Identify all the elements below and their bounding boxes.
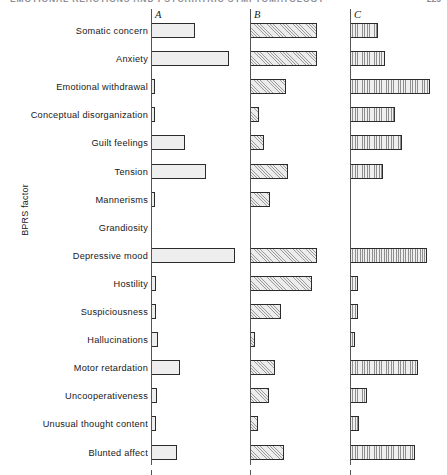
bar-c	[350, 51, 385, 66]
chart-row: Hallucinations	[0, 328, 447, 356]
chart-row: Blunted affect	[0, 441, 447, 469]
bar-a	[151, 51, 229, 66]
bar-b	[250, 79, 286, 94]
category-label: Blunted affect	[88, 448, 148, 458]
chart-row: Somatic concern	[0, 19, 447, 47]
bar-c	[350, 360, 418, 375]
panel-b-baseline-axis	[250, 9, 251, 465]
bar-a	[151, 135, 185, 150]
bar-c	[350, 79, 430, 94]
category-label: Anxiety	[116, 54, 148, 64]
chart-row: Anxiety	[0, 47, 447, 75]
bar-b	[250, 304, 281, 319]
category-label: Motor retardation	[74, 363, 148, 373]
bar-a	[151, 164, 206, 179]
chart-row: Hostility	[0, 272, 447, 300]
axis-tick-c	[350, 470, 351, 475]
chart-row: Depressive mood	[0, 244, 447, 272]
chart-row: Conceptual disorganization	[0, 103, 447, 131]
category-label: Uncooperativeness	[65, 391, 148, 401]
chart-row: Tension	[0, 160, 447, 188]
category-label: Emotional withdrawal	[56, 82, 148, 92]
category-label: Suspiciousness	[81, 307, 148, 317]
category-label: Mannerisms	[95, 195, 148, 205]
bar-b	[250, 51, 317, 66]
bar-c	[350, 248, 427, 263]
chart-row: Guilt feelings	[0, 131, 447, 159]
bar-c	[350, 304, 358, 319]
bar-b	[250, 416, 258, 431]
category-label: Somatic concern	[76, 26, 148, 36]
bar-a	[151, 248, 235, 263]
bar-c	[350, 416, 359, 431]
bar-b	[250, 164, 288, 179]
bar-a	[151, 23, 195, 38]
category-label: Hallucinations	[87, 335, 148, 345]
axis-tick-a	[151, 470, 152, 475]
chart-plot-area: Somatic concernAnxietyEmotional withdraw…	[0, 19, 447, 469]
panel-c-baseline-axis	[350, 9, 351, 465]
bar-c	[350, 388, 367, 403]
bar-c	[350, 276, 358, 291]
page-number: 225	[427, 0, 441, 4]
chart-row: Emotional withdrawal	[0, 75, 447, 103]
bar-b	[250, 192, 270, 207]
bar-b	[250, 248, 317, 263]
bar-b	[250, 360, 275, 375]
panel-a-baseline-axis	[151, 9, 152, 465]
bar-c	[350, 135, 402, 150]
bar-b	[250, 107, 259, 122]
chart-row: Uncooperativeness	[0, 384, 447, 412]
category-label: Depressive mood	[73, 251, 148, 261]
bar-b	[250, 23, 317, 38]
bar-b	[250, 135, 264, 150]
category-label: Hostility	[114, 279, 148, 289]
axis-tick-b	[250, 470, 251, 475]
chart-row: Unusual thought content	[0, 412, 447, 440]
chart-row: Suspiciousness	[0, 300, 447, 328]
bar-c	[350, 445, 415, 460]
running-head-text: EMOTIONAL REACTIONS AND PSYCHIATRIC SYMP…	[10, 0, 325, 4]
bar-c	[350, 23, 378, 38]
category-label: Tension	[115, 167, 148, 177]
chart-row: Motor retardation	[0, 356, 447, 384]
category-label: Conceptual disorganization	[31, 110, 148, 120]
bar-a	[151, 360, 180, 375]
chart-row: Mannerisms	[0, 188, 447, 216]
bar-c	[350, 164, 383, 179]
bar-c	[350, 107, 395, 122]
chart-row: Grandiosity	[0, 216, 447, 244]
category-label: Grandiosity	[99, 223, 148, 233]
bar-b	[250, 388, 269, 403]
bar-a	[151, 445, 177, 460]
bprs-factor-bar-chart: BPRS factor A B C Somatic concernAnxiety…	[0, 9, 447, 475]
bar-a	[151, 332, 158, 347]
page-running-head: EMOTIONAL REACTIONS AND PSYCHIATRIC SYMP…	[0, 0, 447, 9]
category-label: Unusual thought content	[43, 419, 148, 429]
category-label: Guilt feelings	[91, 138, 148, 148]
bar-b	[250, 445, 284, 460]
bar-b	[250, 276, 312, 291]
